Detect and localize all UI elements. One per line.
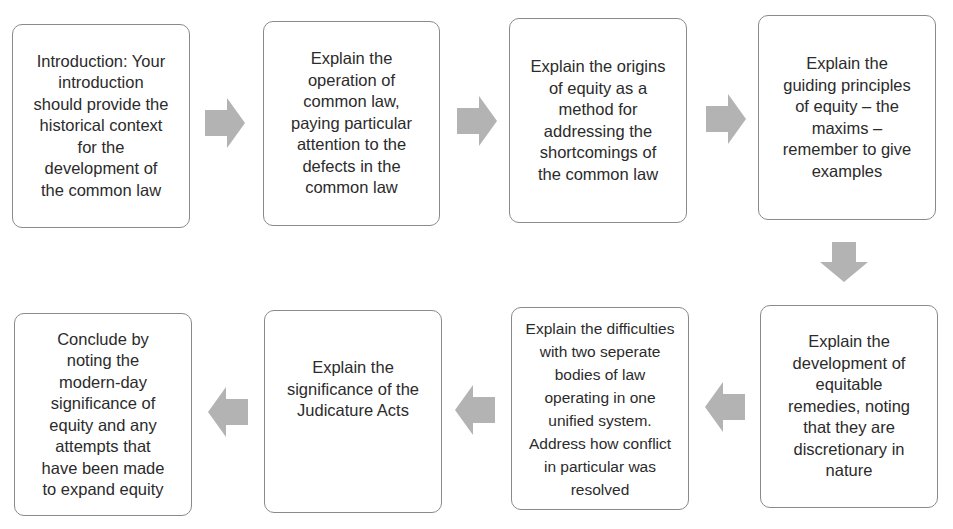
step-4-text: Explain the guiding principles of equity… — [783, 53, 911, 182]
arrow-down-icon — [820, 242, 868, 282]
arrow-left-icon — [208, 387, 248, 437]
step-6-two-bodies-of-law: Explain the difficulties with two sepera… — [511, 307, 689, 510]
step-5-equitable-remedies: Explain the development of equitable rem… — [760, 305, 938, 508]
arrow-left-icon — [455, 385, 495, 435]
arrow-left-icon — [705, 382, 745, 432]
step-6-text: Explain the difficulties with two sepera… — [526, 317, 675, 501]
step-3-text: Explain the origins of equity as a metho… — [531, 56, 666, 185]
step-3-origins-of-equity: Explain the origins of equity as a metho… — [509, 18, 687, 223]
arrow-right-icon — [706, 94, 746, 144]
step-1-text: Introduction: Your introduction should p… — [34, 51, 169, 202]
step-8-conclusion: Conclude by noting the modern-day signif… — [14, 313, 192, 516]
step-8-text: Conclude by noting the modern-day signif… — [42, 329, 165, 501]
arrow-right-icon — [457, 96, 497, 146]
step-4-maxims: Explain the guiding principles of equity… — [758, 15, 936, 220]
step-7-judicature-acts: Explain the significance of the Judicatu… — [264, 310, 442, 513]
step-5-text: Explain the development of equitable rem… — [788, 331, 910, 482]
step-7-text: Explain the significance of the Judicatu… — [287, 357, 419, 422]
arrow-right-icon — [205, 98, 245, 148]
step-1-introduction: Introduction: Your introduction should p… — [12, 24, 190, 228]
step-2-common-law: Explain the operation of common law, pay… — [263, 21, 440, 226]
step-2-text: Explain the operation of common law, pay… — [291, 48, 412, 199]
